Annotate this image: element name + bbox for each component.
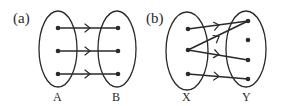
point-a1: [56, 26, 61, 31]
panel-b: (b) X Y: [146, 10, 266, 104]
point-b1: [116, 26, 121, 31]
set-b-label: B: [112, 90, 120, 104]
panel-a: (a) A B: [13, 10, 136, 104]
set-y-label: Y: [242, 90, 251, 104]
point-x1: [186, 27, 191, 32]
point-y4: [246, 77, 251, 82]
point-y3: [246, 58, 251, 63]
point-y2-unmapped: [246, 38, 251, 43]
point-y1: [246, 19, 251, 24]
point-b3: [116, 72, 121, 77]
panel-b-label: (b): [146, 10, 164, 27]
point-a3: [56, 72, 61, 77]
set-x-label: X: [182, 90, 191, 104]
point-a2: [56, 49, 61, 54]
point-b2: [116, 49, 121, 54]
point-x3: [186, 72, 191, 77]
point-x2: [186, 48, 191, 53]
set-a-label: A: [53, 90, 62, 104]
panel-a-label: (a): [13, 10, 30, 27]
mapping-diagram: (a) A B (b): [0, 0, 281, 106]
